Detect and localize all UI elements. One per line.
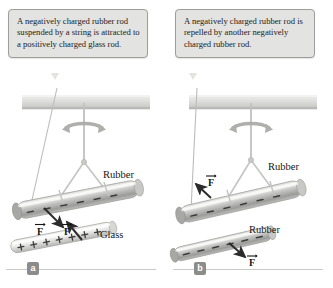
suspension-string-a — [61, 103, 107, 196]
rubber-rod-suspended-b — [174, 178, 308, 225]
force-label-text-rubber-a: F — [37, 226, 43, 237]
scene-a: F F Rubber Glass — [0, 0, 166, 288]
material-label-rubber-a: Rubber — [103, 169, 134, 180]
scene-b: F F Rubber Rubber — [167, 0, 333, 288]
force-label-suspended-b: F — [206, 174, 217, 188]
physics-figure-charged-rods: A negatively charged rubber rod suspende… — [0, 0, 333, 288]
support-bar-a — [22, 95, 150, 109]
suspension-string-b — [229, 103, 273, 196]
material-label-rubber-top-b: Rubber — [268, 161, 299, 172]
panel-label-row-a: a — [0, 262, 166, 276]
panel-letter-a: a — [27, 262, 39, 275]
material-label-glass-a: Glass — [100, 229, 123, 240]
force-label-text-suspended-b: F — [208, 177, 214, 188]
force-label-text-glass-a: F — [64, 226, 70, 237]
panel-b: A negatively charged rubber rod is repel… — [167, 0, 333, 288]
material-label-rubber-bottom-b: Rubber — [249, 224, 280, 235]
panel-a: A negatively charged rubber rod suspende… — [0, 0, 166, 288]
panel-label-row-b: b — [167, 262, 333, 276]
rubber-rod-a — [11, 178, 145, 221]
support-bar-b — [189, 95, 317, 109]
panel-letter-b: b — [194, 262, 206, 275]
